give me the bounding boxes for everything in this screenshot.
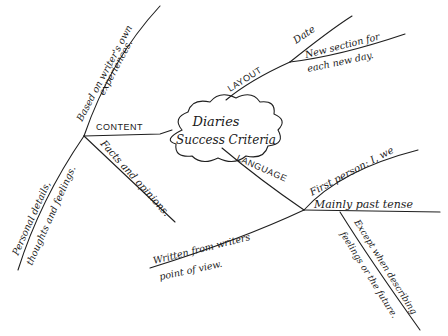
- branch-label-layout: LAYOUT: [226, 65, 264, 94]
- content-sub-based-1: Based on writer's own: [74, 23, 135, 124]
- branch-label-content: CONTENT: [96, 122, 143, 132]
- mind-map: Diaries Success Criteria LAYOUT Date New…: [0, 0, 448, 336]
- center-title-line2: Success Criteria: [176, 133, 276, 147]
- center-title-line1: Diaries: [191, 114, 239, 129]
- content-sub-facts: Facts and opinions.: [98, 137, 173, 218]
- language-sub-past-tense: Mainly past tense: [313, 198, 413, 211]
- branch-language: LANGUAGE First person: I, we Mainly past…: [150, 144, 440, 330]
- language-sub-written-1: Written from writers: [152, 231, 252, 266]
- layout-sub-date: Date: [290, 23, 317, 46]
- branch-content: CONTENT Based on writer's own experience…: [9, 6, 175, 270]
- language-sub-first-person: First person: I, we: [307, 144, 395, 198]
- branch-layout: LAYOUT Date New section for each new day…: [226, 16, 405, 100]
